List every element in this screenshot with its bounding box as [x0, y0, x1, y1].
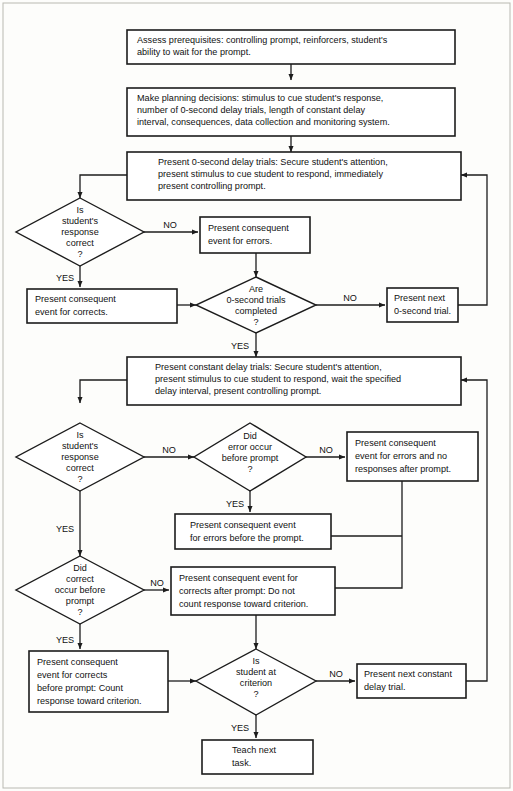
did-correct-occur-line-3: occur before — [55, 585, 106, 595]
next-zero-trial-line-1: Present next — [394, 293, 446, 303]
assess-prerequisites-line-1: Assess prerequisites: controlling prompt… — [137, 35, 388, 45]
node-consequent-corrects-zero: Present consequent event for corrects. — [27, 289, 177, 323]
did-correct-occur-line-5: ? — [77, 607, 82, 617]
node-planning-decisions: Make planning decisions: stimulus to cue… — [127, 88, 455, 136]
did-correct-occur-line-4: prompt — [66, 596, 95, 606]
edge-label-no-zero-trials-completed: NO — [343, 293, 357, 303]
node-is-response-correct-constant: Is student's response correct ? — [16, 423, 144, 491]
connector-next-constant-delay-feedback — [461, 380, 487, 681]
errors-no-responses-line-3: responses after prompt. — [355, 464, 451, 474]
constant-delay-line-1: Present constant delay trials: Secure st… — [155, 362, 382, 372]
node-teach-next-task: Teach next task. — [202, 740, 313, 774]
edge-label-no-response-correct-constant: NO — [162, 445, 176, 455]
planning-decisions-line-2: number of 0-second delay trials, length … — [137, 105, 365, 115]
flowchart-page: Assess prerequisites: controlling prompt… — [0, 0, 513, 791]
is-correct-constant-line-5: ? — [77, 474, 82, 484]
edge-label-yes-correct-before-prompt: YES — [56, 635, 74, 645]
edge-label-no-error-before-prompt: NO — [319, 445, 333, 455]
consequent-errors-zero-line-2: event for errors. — [208, 236, 272, 246]
is-student-at-criterion-line-4: ? — [253, 689, 258, 699]
flowchart-canvas: Assess prerequisites: controlling prompt… — [0, 0, 513, 791]
node-did-error-occur-before-prompt: Did error occur before prompt ? — [194, 423, 306, 491]
is-correct-zero-line-5: ? — [77, 249, 82, 259]
did-error-occur-line-1: Did — [243, 431, 257, 441]
node-consequent-errors-no-responses-after-prompt: Present consequent event for errors and … — [347, 432, 478, 481]
node-consequent-corrects-after-prompt: Present consequent event for corrects af… — [171, 567, 335, 615]
corrects-before-prompt-line-2: event for corrects — [37, 670, 108, 680]
zero-trials-completed-line-1: Are — [249, 284, 263, 294]
consequent-corrects-zero-line-2: event for corrects. — [35, 307, 108, 317]
did-error-occur-line-2: error occur — [228, 442, 272, 452]
corrects-before-prompt-line-1: Present consequent — [37, 657, 118, 667]
zero-trials-completed-line-4: ? — [253, 317, 258, 327]
constant-delay-line-3: delay interval, present controlling prom… — [155, 386, 321, 396]
errors-no-responses-line-1: Present consequent — [355, 438, 436, 448]
is-correct-constant-line-4: correct — [66, 463, 94, 473]
node-is-response-correct-zero: Is student's response correct ? — [16, 198, 144, 266]
edge-label-yes-student-at-criterion: YES — [231, 723, 249, 733]
did-error-occur-line-4: ? — [247, 464, 252, 474]
is-correct-constant-line-1: Is — [76, 430, 84, 440]
next-zero-trial-line-2: 0-second trial. — [394, 306, 451, 316]
corrects-after-prompt-line-3: count response toward criterion. — [179, 599, 308, 609]
is-student-at-criterion-line-3: criterion — [240, 678, 272, 688]
node-consequent-errors-before-prompt: Present consequent event for errors befo… — [175, 514, 331, 549]
errors-no-responses-line-2: event for errors and no — [355, 451, 447, 461]
connector-constant-delay-to-is-correct — [80, 380, 127, 403]
node-consequent-corrects-before-prompt: Present consequent event for corrects be… — [29, 651, 168, 712]
is-correct-zero-line-4: correct — [66, 238, 94, 248]
consequent-corrects-zero-line-1: Present consequent — [35, 294, 116, 304]
did-correct-occur-line-1: Did — [73, 563, 87, 573]
errors-before-prompt-line-2: for errors before the prompt. — [190, 533, 304, 543]
corrects-before-prompt-line-3: before prompt: Count — [37, 683, 123, 693]
edge-label-no-student-at-criterion: NO — [329, 669, 343, 679]
did-error-occur-line-3: before prompt — [222, 453, 279, 463]
zero-delay-trials-line-2: present stimulus to cue student to respo… — [158, 169, 383, 179]
planning-decisions-line-3: interval, consequences, data collection … — [137, 117, 390, 127]
edge-label-yes-error-before-prompt: YES — [226, 499, 244, 509]
is-correct-zero-line-2: student's — [62, 216, 99, 226]
connector-zero-trials-to-is-correct — [80, 175, 127, 198]
planning-decisions-line-1: Make planning decisions: stimulus to cue… — [137, 93, 383, 103]
is-student-at-criterion-line-2: student at — [236, 667, 276, 677]
constant-delay-line-2: present stimulus to cue student to respo… — [155, 374, 401, 384]
edge-label-yes-zero-trials-completed: YES — [231, 341, 249, 351]
teach-next-task-line-2: task. — [232, 758, 251, 768]
is-correct-zero-line-1: Is — [76, 205, 84, 215]
zero-delay-trials-line-1: Present 0-second delay trials: Secure st… — [158, 157, 388, 167]
edge-label-no-correct-before-prompt: NO — [150, 578, 164, 588]
corrects-after-prompt-line-2: corrects after prompt: Do not — [179, 586, 295, 596]
node-did-correct-occur-before-prompt: Did correct occur before prompt ? — [16, 556, 144, 624]
node-assess-prerequisites: Assess prerequisites: controlling prompt… — [127, 30, 455, 64]
zero-trials-completed-line-3: completed — [235, 306, 277, 316]
node-are-zero-second-trials-completed: Are 0-second trials completed ? — [196, 277, 316, 333]
node-present-constant-delay-trials: Present constant delay trials: Secure st… — [127, 357, 461, 405]
is-correct-constant-line-3: response — [61, 452, 98, 462]
corrects-before-prompt-line-4: response toward criterion. — [37, 696, 142, 706]
node-is-student-at-criterion: Is student at criterion ? — [196, 649, 316, 715]
corrects-after-prompt-line-1: Present consequent event for — [179, 573, 298, 583]
zero-delay-trials-line-3: present controlling prompt. — [158, 181, 266, 191]
consequent-errors-zero-line-1: Present consequent — [208, 223, 289, 233]
is-correct-zero-line-3: response — [61, 227, 98, 237]
node-consequent-errors-zero: Present consequent event for errors. — [200, 217, 310, 253]
is-correct-constant-line-2: student's — [62, 441, 99, 451]
zero-trials-completed-line-2: 0-second trials — [226, 295, 286, 305]
assess-prerequisites-line-2: ability to wait for the prompt. — [137, 47, 251, 57]
teach-next-task-line-1: Teach next — [232, 745, 276, 755]
node-present-next-constant-delay-trial: Present next constant delay trial. — [357, 664, 466, 698]
is-student-at-criterion-line-1: Is — [252, 656, 260, 666]
edge-label-no-response-correct-zero: NO — [163, 220, 177, 230]
errors-before-prompt-line-1: Present consequent event — [190, 520, 296, 530]
edge-label-yes-response-correct-constant: YES — [56, 524, 74, 534]
next-constant-delay-line-2: delay trial. — [364, 682, 405, 692]
next-constant-delay-line-1: Present next constant — [364, 669, 452, 679]
did-correct-occur-line-2: correct — [66, 574, 94, 584]
node-present-zero-second-delay-trials: Present 0-second delay trials: Secure st… — [127, 152, 461, 200]
node-present-next-zero-second-trial: Present next 0-second trial. — [387, 288, 458, 322]
connector-next-zero-trial-feedback — [458, 175, 487, 305]
edge-label-yes-response-correct-zero: YES — [56, 273, 74, 283]
